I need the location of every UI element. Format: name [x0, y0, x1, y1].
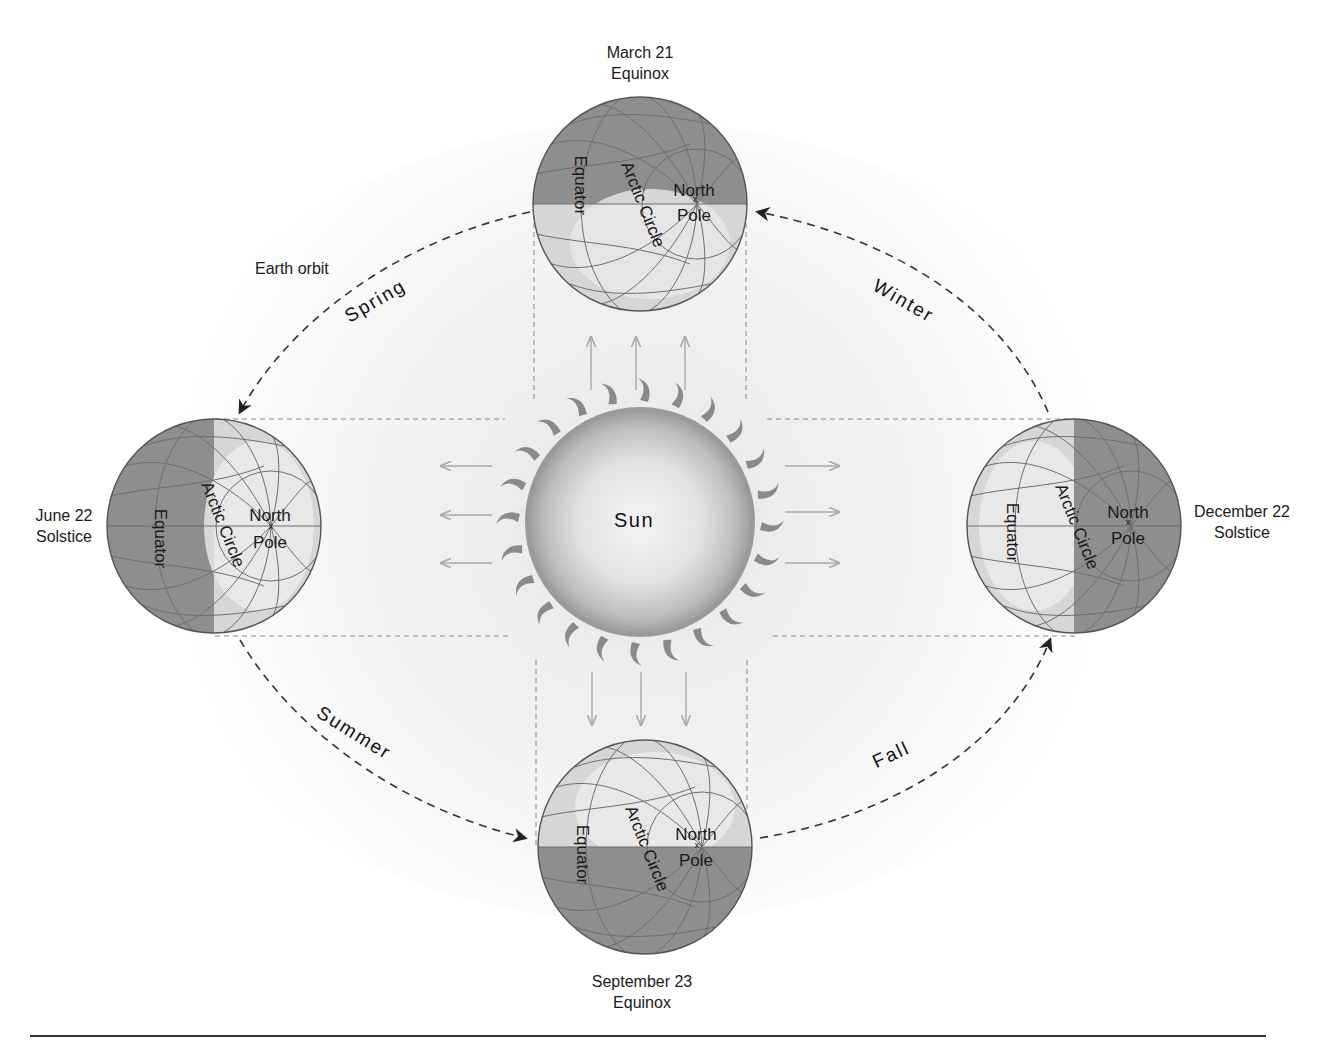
seasons-diagram: Equator Arctic Circle North Pole x Equat…	[0, 0, 1325, 1044]
pole-label-june: Pole	[248, 532, 292, 553]
position-label-september: September 23 Equinox	[567, 971, 717, 1013]
pole-label-december: Pole	[1106, 528, 1150, 549]
date-december: December 22	[1186, 501, 1298, 522]
position-label-december: December 22 Solstice	[1186, 501, 1298, 543]
pole-label-march: Pole	[672, 205, 716, 226]
bottom-divider	[30, 1035, 1266, 1037]
sun-label: Sun	[614, 509, 654, 532]
date-september: September 23	[567, 971, 717, 992]
date-june: June 22	[22, 505, 106, 526]
event-march: Equinox	[570, 63, 710, 84]
equator-label-september: Equator	[572, 825, 593, 885]
position-label-march: March 21 Equinox	[570, 42, 710, 84]
equator-label-june: Equator	[150, 509, 171, 569]
earth-orbit-label: Earth orbit	[255, 258, 355, 279]
equator-label-march: Equator	[570, 156, 591, 196]
date-march: March 21	[570, 42, 710, 63]
event-june: Solstice	[22, 526, 106, 547]
event-september: Equinox	[567, 992, 717, 1013]
pole-marker-september: x	[692, 840, 702, 850]
position-label-june: June 22 Solstice	[22, 505, 106, 547]
pole-marker-june: x	[266, 521, 276, 531]
pole-label-september: Pole	[674, 850, 718, 871]
pole-marker-december: x	[1123, 517, 1133, 527]
equator-label-december: Equator	[1002, 503, 1023, 563]
pole-marker-march: x	[690, 194, 700, 204]
event-december: Solstice	[1186, 522, 1298, 543]
